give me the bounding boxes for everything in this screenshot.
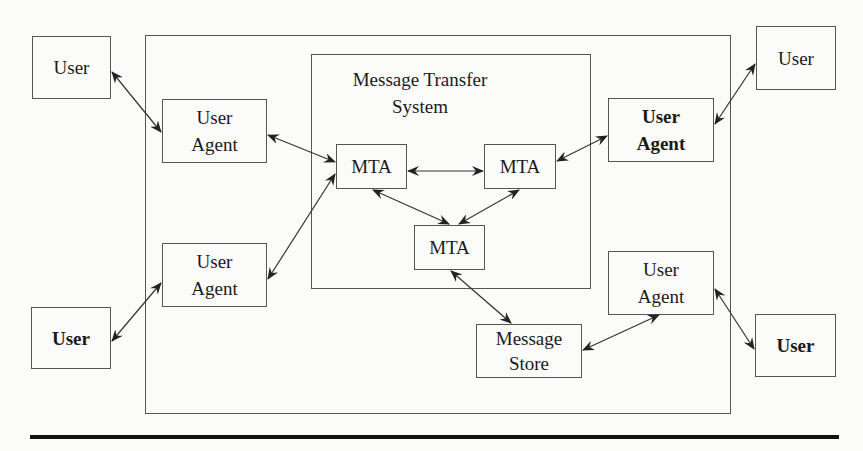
edge-ua-bl-mta-left [268, 174, 335, 279]
edge-mta-left-mta-bottom [373, 190, 449, 224]
edge-mta-bottom-message-store [451, 271, 511, 323]
edge-ua-br-user-br [715, 289, 754, 349]
edge-user-bl-ua-bl [112, 283, 161, 341]
bottom-rule [30, 435, 839, 439]
edge-user-tl-ua-tl [112, 72, 161, 132]
edge-message-store-ua-br [583, 315, 659, 350]
edge-mta-right-ua-tr [557, 136, 607, 161]
connection-arrows [0, 0, 863, 451]
edge-ua-tr-user-tr [715, 64, 755, 124]
edge-mta-right-mta-bottom [459, 190, 519, 224]
edge-ua-tl-mta-left [268, 135, 335, 162]
